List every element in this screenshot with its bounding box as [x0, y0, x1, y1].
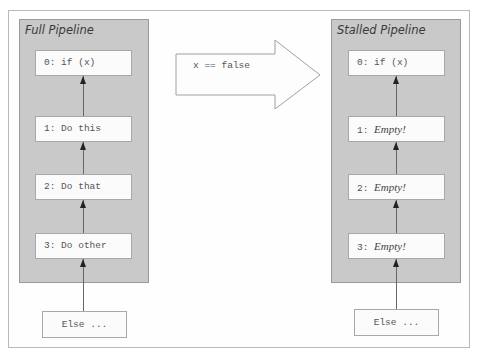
stage-empty-text: Empty! — [374, 240, 406, 252]
stage-index: 1: — [357, 125, 368, 136]
pipeline-stage-3: 3: Empty! — [348, 233, 445, 259]
arrow-up-icon — [80, 200, 86, 208]
transition-arrow-icon — [175, 39, 325, 109]
stage-text: Do other — [61, 240, 107, 251]
stage-index: 2: — [44, 181, 55, 192]
pipeline-stage-0: 0: if (x) — [348, 50, 445, 76]
stage-text: if (x) — [374, 57, 408, 68]
stage-index: 2: — [357, 183, 368, 194]
pipeline-stage-3: 3: Do other — [35, 233, 132, 259]
arrow-up-icon — [80, 76, 86, 84]
arrow-up-icon — [393, 259, 399, 267]
stage-text: Do this — [61, 123, 101, 134]
stage-index: 0: — [357, 57, 368, 68]
pipeline-stage-0: 0: if (x) — [35, 50, 132, 76]
panel-title: Stalled Pipeline — [337, 23, 426, 37]
pipeline-stage-1: 1: Do this — [35, 116, 132, 142]
transition-condition: x == false — [193, 60, 250, 71]
arrow-up-icon — [393, 76, 399, 84]
arrow-up-icon — [393, 142, 399, 150]
stage-index: 1: — [44, 123, 55, 134]
pipeline-stage-1: 1: Empty! — [348, 116, 445, 142]
stage-index: 3: — [44, 240, 55, 251]
pipeline-stage-2: 2: Do that — [35, 174, 132, 200]
stage-index: 0: — [44, 57, 55, 68]
pipeline-stage-2: 2: Empty! — [348, 174, 445, 200]
arrow-up-icon — [80, 259, 86, 267]
stage-text: if (x) — [61, 57, 95, 68]
panel-title: Full Pipeline — [25, 23, 94, 37]
arrow-up-icon — [80, 142, 86, 150]
stage-text: Do that — [61, 181, 101, 192]
stage-empty-text: Empty! — [374, 181, 406, 193]
stage-empty-text: Empty! — [374, 123, 406, 135]
else-input-box: Else ... — [42, 311, 127, 338]
arrow-up-icon — [393, 200, 399, 208]
stage-index: 3: — [357, 242, 368, 253]
else-input-box: Else ... — [354, 309, 439, 336]
